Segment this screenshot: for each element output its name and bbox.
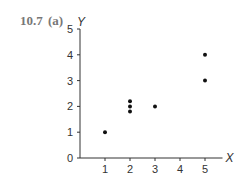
x-tick-label: 3 <box>152 163 158 175</box>
y-tick-label: 5 <box>67 23 73 35</box>
data-point <box>203 79 207 83</box>
data-points <box>103 53 207 134</box>
data-point <box>203 53 207 57</box>
x-tick-label: 1 <box>102 163 108 175</box>
data-point <box>128 99 132 103</box>
y-tick-label: 0 <box>67 152 73 164</box>
x-tick-label: 4 <box>177 163 183 175</box>
data-point <box>153 104 157 108</box>
scatter-chart: 01234512345YX <box>0 0 239 179</box>
y-tick-label: 1 <box>67 126 73 138</box>
y-tick-label: 2 <box>67 100 73 112</box>
y-tick-label: 3 <box>67 75 73 87</box>
data-point <box>103 130 107 134</box>
data-point <box>128 110 132 114</box>
axes: 01234512345YX <box>67 15 235 175</box>
y-tick-label: 4 <box>67 49 73 61</box>
x-tick-label: 2 <box>127 163 133 175</box>
x-tick-label: 5 <box>202 163 208 175</box>
y-axis-label: Y <box>77 15 86 29</box>
data-point <box>128 104 132 108</box>
x-axis-label: X <box>225 151 235 165</box>
